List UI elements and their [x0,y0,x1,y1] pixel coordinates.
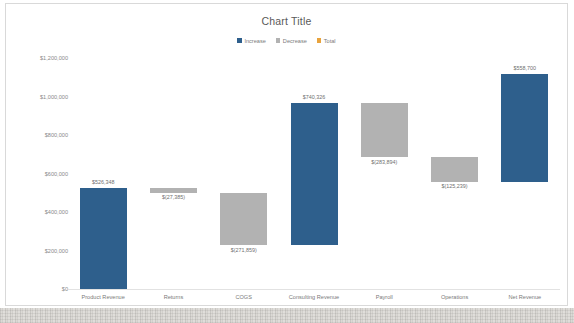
y-axis-tick-label: $400,000 [14,209,68,215]
bar-data-label: $(283,894) [371,159,397,165]
y-axis-tick-label: $800,000 [14,132,68,138]
bar-cogs[interactable] [220,193,267,245]
x-axis-tick-label: Product Revenue [82,294,125,300]
bar-data-label: $(27,385) [162,194,185,200]
bar-data-label: $526,348 [92,179,114,185]
bar-data-label: $740,326 [303,94,325,100]
bar-data-label: $558,700 [514,65,536,71]
bar-returns[interactable] [150,188,197,193]
bar-data-label: $(271,859) [231,247,257,253]
x-axis-tick-label: Payroll [376,294,393,300]
x-axis-tick-label: Consulting Revenue [289,294,339,300]
y-axis-tick-label: $1,200,000 [14,55,68,61]
y-axis-tick-label: $1,000,000 [14,94,68,100]
x-axis-tick-label: Returns [164,294,184,300]
x-axis-tick-label: Net Revenue [509,294,542,300]
x-axis-line [68,289,560,290]
chart-container: Chart Title IncreaseDecreaseTotal $1,200… [5,3,568,306]
x-axis-tick-label: COGS [235,294,251,300]
y-axis: $1,200,000$1,000,000$800,000$600,000$400… [12,4,68,306]
y-axis-tick-label: $600,000 [14,171,68,177]
y-axis-tick-label: $0 [14,286,68,292]
bar-product-revenue[interactable] [80,188,127,289]
page-background-strip [0,308,574,323]
bar-payroll[interactable] [361,103,408,158]
y-axis-tick-label: $200,000 [14,248,68,254]
plot-area: $1,200,000$1,000,000$800,000$600,000$400… [6,4,568,306]
bar-consulting-revenue[interactable] [291,103,338,246]
bar-operations[interactable] [431,157,478,181]
bar-data-label: $(125,239) [442,183,468,189]
bar-net-revenue[interactable] [501,74,548,182]
x-axis-tick-label: Operations [441,294,468,300]
